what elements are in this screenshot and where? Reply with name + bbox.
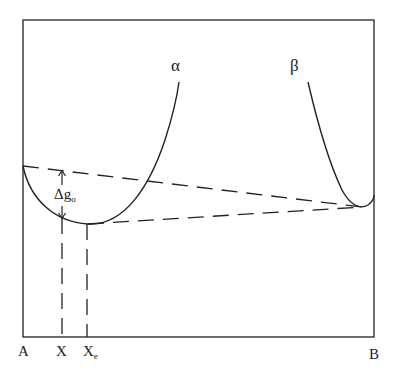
- axis-label-b: B: [369, 346, 379, 362]
- xe-subscript: e: [94, 351, 98, 361]
- beta-curve: [308, 82, 374, 207]
- plot-frame: [23, 20, 374, 337]
- delta-g-subscript: o: [71, 194, 76, 204]
- delta-g-label: Δgo: [54, 186, 76, 204]
- alpha-label: α: [171, 56, 180, 75]
- axis-label-x: X: [56, 343, 67, 359]
- axis-label-a: A: [18, 343, 29, 359]
- common-tangent-line: [88, 207, 362, 224]
- xe-main: X: [83, 343, 94, 359]
- alpha-curve: [23, 82, 179, 224]
- axis-label-xe: Xe: [83, 343, 98, 361]
- diagram-canvas: α β Δgo A X Xe B: [0, 0, 397, 377]
- beta-label: β: [290, 56, 299, 75]
- delta-g-main: Δg: [54, 186, 72, 202]
